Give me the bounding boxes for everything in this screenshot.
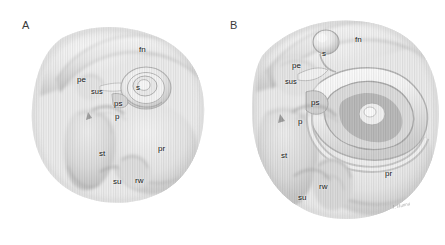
label-a-p: p	[115, 113, 119, 121]
label-a-pe: pe	[77, 76, 86, 84]
label-b-su: su	[298, 194, 306, 202]
label-b-ps: ps	[311, 99, 319, 107]
label-a-su: su	[113, 178, 121, 186]
panel-a-artwork	[0, 0, 222, 245]
panel-a: A	[0, 0, 222, 245]
label-b-fn: fn	[355, 36, 362, 44]
label-b-pe: pe	[292, 62, 301, 70]
label-a-s: s	[136, 84, 140, 92]
label-b-pr: pr	[385, 170, 392, 178]
label-a-fn: fn	[139, 46, 146, 54]
panel-b-artwork	[222, 0, 445, 245]
label-b-sus: sus	[285, 78, 297, 86]
label-b-p: p	[298, 118, 302, 126]
panel-b: B	[222, 0, 445, 245]
label-a-ps: ps	[114, 100, 122, 108]
label-a-pr: pr	[158, 145, 165, 153]
label-a-sus: sus	[91, 88, 103, 96]
label-b-rw: rw	[319, 183, 327, 191]
label-a-st: st	[99, 150, 105, 158]
label-b-s: s	[322, 50, 326, 58]
figure-panel-pair: A	[0, 0, 445, 245]
label-b-st: st	[281, 152, 287, 160]
label-a-rw: rw	[135, 177, 143, 185]
